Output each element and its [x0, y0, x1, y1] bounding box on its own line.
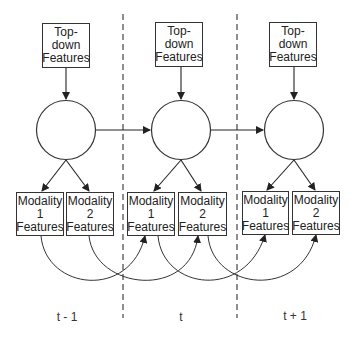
modality-1-features-box-t: Modality 1 Features [127, 192, 175, 236]
modality-2-features-box-t-plus-1: Modality 2 Features [292, 191, 340, 235]
hidden-state-node-t-plus-1 [265, 101, 324, 160]
modality-2-features-box-t: Modality 2 Features [178, 192, 227, 236]
hidden-state-node-t [152, 101, 211, 160]
time-label-t: t [156, 310, 206, 324]
modality-1-features-box-t-plus-1: Modality 1 Features [242, 191, 289, 235]
top-down-features-box-t-minus-1: Top- down Features [42, 23, 90, 68]
modality-2-features-box-t-minus-1: Modality 2 Features [66, 192, 114, 236]
modality-1-features-box-t-minus-1: Modality 1 Features [16, 192, 64, 236]
hidden-state-node-t-minus-1 [37, 101, 96, 160]
time-label-t-plus-1: t + 1 [270, 309, 320, 323]
top-down-features-box-t-plus-1: Top- down Features [269, 22, 317, 67]
top-down-features-box-t: Top- down Features [155, 22, 203, 67]
time-label-t-minus-1: t - 1 [42, 310, 92, 324]
